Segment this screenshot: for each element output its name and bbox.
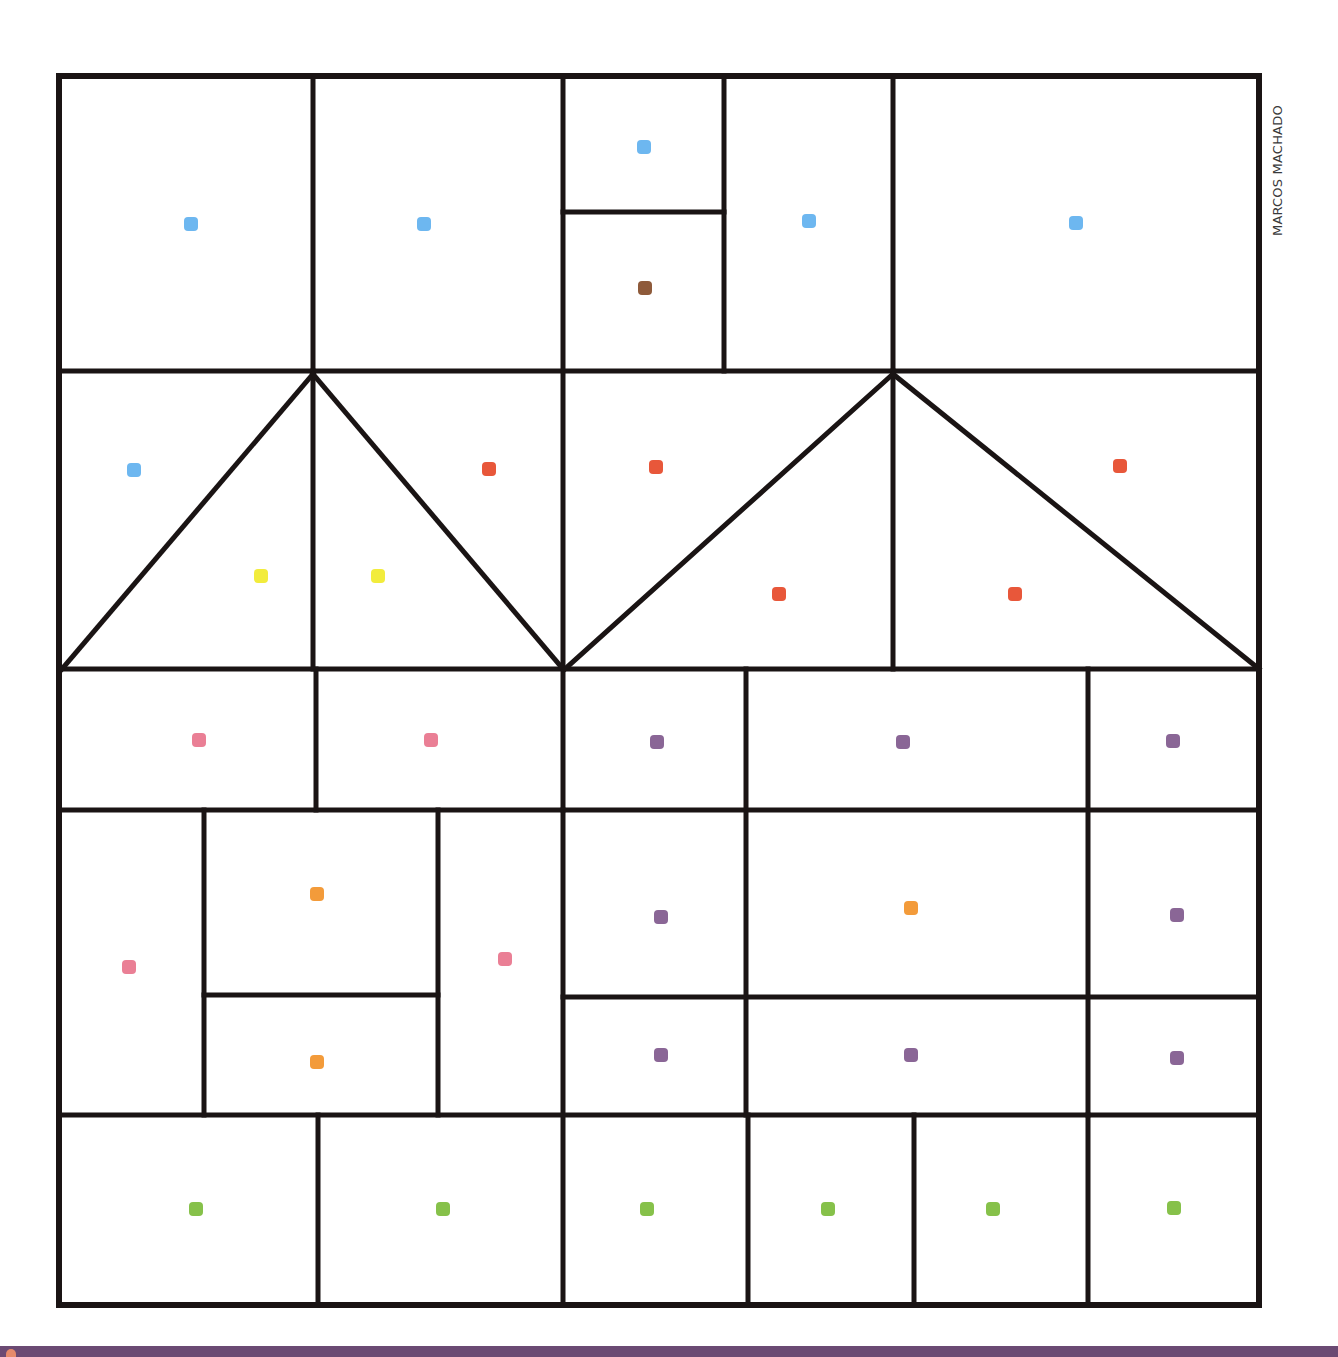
- grid-line: [313, 374, 563, 669]
- pink-dot: [192, 733, 206, 747]
- purple-dot: [1166, 734, 1180, 748]
- green-dot: [821, 1202, 835, 1216]
- blue-dot: [1069, 216, 1083, 230]
- purple-dot: [650, 735, 664, 749]
- geometric-grid-diagram: [0, 0, 1338, 1357]
- blue-dot: [417, 217, 431, 231]
- yellow-dot: [254, 569, 268, 583]
- green-dot: [1167, 1201, 1181, 1215]
- red-dot: [482, 462, 496, 476]
- purple-dot: [896, 735, 910, 749]
- pink-dot: [498, 952, 512, 966]
- pink-dot: [122, 960, 136, 974]
- purple-dot: [1170, 908, 1184, 922]
- purple-dot: [654, 910, 668, 924]
- green-dot: [189, 1202, 203, 1216]
- footer-mark-icon: [6, 1349, 16, 1357]
- blue-dot: [802, 214, 816, 228]
- green-dot: [986, 1202, 1000, 1216]
- grid-line: [893, 374, 1259, 669]
- grid-line: [62, 374, 313, 669]
- footer-band: [0, 1346, 1338, 1357]
- purple-dot: [1170, 1051, 1184, 1065]
- photo-credit: MARCOS MACHADO: [1270, 76, 1290, 236]
- green-dot: [436, 1202, 450, 1216]
- blue-dot: [637, 140, 651, 154]
- red-dot: [1113, 459, 1127, 473]
- grid-lines: [59, 76, 1259, 1305]
- purple-dot: [904, 1048, 918, 1062]
- green-dot: [640, 1202, 654, 1216]
- red-dot: [1008, 587, 1022, 601]
- outer-frame: [59, 76, 1259, 1305]
- brown-dot: [638, 281, 652, 295]
- blue-dot: [127, 463, 141, 477]
- colored-dots: [122, 140, 1184, 1216]
- orange-dot: [904, 901, 918, 915]
- yellow-dot: [371, 569, 385, 583]
- pink-dot: [424, 733, 438, 747]
- grid-line: [565, 374, 893, 669]
- red-dot: [772, 587, 786, 601]
- purple-dot: [654, 1048, 668, 1062]
- orange-dot: [310, 887, 324, 901]
- blue-dot: [184, 217, 198, 231]
- orange-dot: [310, 1055, 324, 1069]
- red-dot: [649, 460, 663, 474]
